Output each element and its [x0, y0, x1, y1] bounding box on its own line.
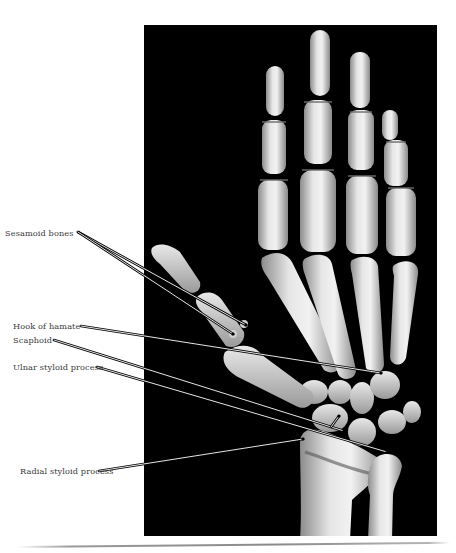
trapezoid-bone	[328, 380, 352, 404]
bones-group	[151, 30, 421, 540]
index-middle-phalanx	[262, 120, 286, 174]
label-scaphoid: Scaphoid	[13, 335, 52, 345]
ring-proximal-phalanx	[346, 176, 378, 254]
little-proximal-phalanx	[386, 188, 416, 256]
hamate-bone	[370, 371, 400, 399]
label-radial-styloid-process: Radial styloid process	[20, 466, 113, 476]
pisiform-bone	[403, 401, 421, 423]
index-distal-phalanx	[266, 66, 284, 116]
little-distal-phalanx	[382, 110, 398, 140]
ring-metacarpal	[351, 257, 385, 373]
middle-distal-phalanx	[310, 30, 330, 96]
leader-radial-styloid-process	[99, 437, 305, 471]
ulna-bone	[368, 454, 402, 540]
anatomy-figure: Sesamoid bones Hook of hamate Scaphoid U…	[0, 0, 456, 553]
middle-proximal-phalanx	[300, 170, 336, 252]
ring-distal-phalanx	[350, 52, 370, 108]
triquetrum-bone	[378, 410, 406, 434]
ring-middle-phalanx	[348, 110, 374, 170]
little-metacarpal	[390, 261, 418, 364]
middle-middle-phalanx	[304, 100, 332, 164]
label-ulnar-styloid-process: Ulnar styloid process	[13, 362, 103, 372]
index-proximal-phalanx	[258, 180, 288, 250]
label-hook-of-hamate: Hook of hamate	[13, 321, 80, 331]
label-sesamoid-bones: Sesamoid bones	[5, 228, 74, 238]
little-middle-phalanx	[384, 140, 408, 186]
